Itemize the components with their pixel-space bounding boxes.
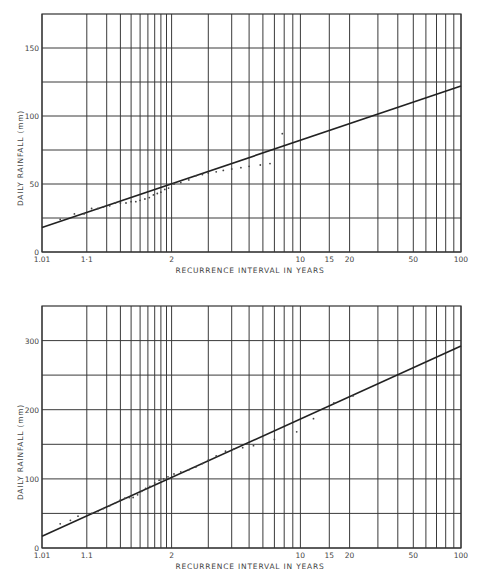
x-tick-label: 15: [325, 551, 335, 560]
chart-top: 0501001501.011·1210152050100RECURRENCE I…: [0, 0, 480, 290]
data-point: [225, 450, 227, 452]
data-point: [163, 478, 165, 480]
data-point: [231, 168, 233, 170]
data-point: [195, 175, 197, 177]
data-point: [167, 476, 169, 478]
x-tick-label: 20: [345, 255, 355, 264]
x-axis-label: RECURRENCE INTERVAL IN YEARS: [175, 562, 324, 571]
x-axis-label: RECURRENCE INTERVAL IN YEARS: [175, 266, 324, 275]
data-point: [97, 511, 99, 513]
data-point: [173, 183, 175, 185]
chart-bottom-plot: 01002003001.011.1210152050100RECURRENCE …: [0, 292, 480, 579]
data-point: [115, 202, 117, 204]
data-point: [195, 466, 197, 468]
data-point: [103, 206, 105, 208]
data-point: [207, 459, 209, 461]
data-point: [156, 193, 158, 195]
data-point: [103, 508, 105, 510]
x-tick-label: 15: [325, 255, 335, 264]
x-tick-label: 1.1: [81, 551, 93, 560]
y-tick-label: 50: [29, 180, 39, 189]
data-point: [137, 494, 139, 496]
data-point: [125, 202, 127, 204]
y-tick-label: 300: [25, 337, 40, 346]
data-point: [109, 205, 111, 207]
data-point: [160, 191, 162, 193]
data-point: [59, 219, 61, 221]
data-point: [222, 170, 224, 172]
x-tick-label: 100: [454, 551, 469, 560]
data-point: [180, 471, 182, 473]
y-tick-label: 100: [25, 112, 40, 121]
y-tick-label: 100: [25, 475, 40, 484]
data-point: [248, 165, 250, 167]
data-point: [139, 199, 141, 201]
data-point: [259, 164, 261, 166]
data-point: [130, 201, 132, 203]
data-point: [188, 179, 190, 181]
data-point: [145, 488, 147, 490]
x-tick-label: 10: [296, 255, 306, 264]
data-point: [128, 497, 130, 499]
y-tick-label: 150: [25, 44, 40, 53]
data-point: [74, 213, 76, 215]
x-tick-label: 1·1: [81, 255, 93, 264]
data-point: [91, 513, 93, 515]
data-point: [262, 443, 264, 445]
data-point: [59, 523, 61, 525]
data-point: [91, 208, 93, 210]
data-point: [141, 490, 143, 492]
x-tick-label: 1.01: [34, 255, 51, 264]
y-axis-label: DAILY RAINFALL (mm): [16, 110, 25, 206]
data-point: [215, 455, 217, 457]
data-point: [274, 439, 276, 441]
data-point: [120, 202, 122, 204]
grid: [42, 306, 461, 548]
data-point: [148, 197, 150, 199]
data-point: [242, 447, 244, 449]
data-point: [164, 189, 166, 191]
x-tick-label: 100: [454, 255, 469, 264]
data-point: [333, 402, 335, 404]
data-point: [158, 479, 160, 481]
data-point: [124, 497, 126, 499]
data-point: [135, 201, 137, 203]
data-point: [188, 469, 190, 471]
data-point: [153, 194, 155, 196]
data-point: [240, 167, 242, 169]
data-point: [83, 213, 85, 215]
data-point: [202, 463, 204, 465]
data-point: [120, 499, 122, 501]
data-point: [70, 519, 72, 521]
data-point: [215, 171, 217, 173]
data-point: [168, 187, 170, 189]
data-point: [132, 497, 134, 499]
data-point: [202, 174, 204, 176]
grid: [42, 14, 461, 252]
data-point: [115, 502, 117, 504]
data-point: [313, 418, 315, 420]
y-tick-label: 200: [25, 406, 40, 415]
data-point: [296, 431, 298, 433]
data-point: [173, 473, 175, 475]
x-tick-label: 2: [169, 255, 174, 264]
data-point: [233, 448, 235, 450]
x-tick-label: 50: [408, 255, 418, 264]
y-axis-label: DAILY RAINFALL (mm): [16, 404, 25, 500]
data-point: [144, 198, 146, 200]
data-point: [207, 172, 209, 174]
x-tick-label: 20: [345, 551, 355, 560]
x-tick-label: 1.01: [34, 551, 51, 560]
data-point: [109, 505, 111, 507]
data-point: [154, 482, 156, 484]
x-tick-label: 10: [296, 551, 306, 560]
data-point: [77, 515, 79, 517]
data-point: [97, 208, 99, 210]
x-tick-label: 2: [169, 551, 174, 560]
x-tick-label: 50: [408, 551, 418, 560]
data-point: [281, 133, 283, 135]
data-point: [253, 445, 255, 447]
data-point: [269, 163, 271, 165]
data-point: [180, 182, 182, 184]
chart-top-plot: 0501001501.011·1210152050100RECURRENCE I…: [0, 0, 480, 290]
